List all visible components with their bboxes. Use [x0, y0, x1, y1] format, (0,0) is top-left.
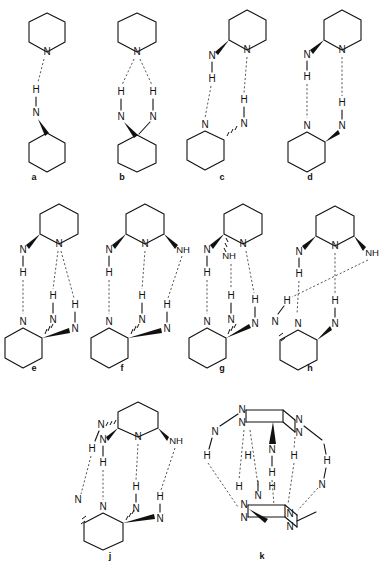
atom-label-N-ring-top: N [239, 238, 246, 249]
stereo-hash-f [131, 324, 139, 334]
atom-label-H-topleft: H [295, 268, 302, 279]
hydrogen-bond-2 [140, 59, 152, 85]
atom-label-N-ring-bottom: N [203, 316, 210, 327]
atom-label-N-top-left2: N [238, 417, 245, 428]
panel-caption-h: h [290, 363, 330, 373]
cage-top-ring [246, 410, 295, 432]
panel-caption-c: c [202, 172, 242, 182]
piperidine-ring-bottom [91, 328, 128, 368]
atom-label-N-amine-left2: N [99, 434, 106, 445]
structure-panel-c: N N H H N N [185, 0, 285, 175]
panel-caption-b: b [102, 172, 142, 182]
atom-label-N-amine-bottom: N [338, 120, 345, 131]
atom-label-H-left: H [117, 86, 124, 97]
atom-label-N-amine-bottomfar: N [74, 494, 81, 505]
atom-label-H-right: H [156, 491, 163, 502]
stereo-hash-g-bottom [228, 324, 236, 334]
hydrogen-bond-right [244, 57, 247, 93]
bond-Nouterright-H [324, 444, 326, 454]
atom-label-H-left-lower: H [235, 481, 242, 492]
stereo-hash-c [227, 126, 237, 136]
hydrogen-bond-k-7 [298, 488, 318, 510]
stereo-wedge-e-bottom [42, 328, 70, 338]
atom-label-H-right: H [163, 299, 170, 310]
stereo-wedge-g-bottom [226, 324, 251, 338]
atom-label-N-ring-top: N [331, 240, 338, 251]
atom-label-H-top: H [208, 73, 215, 84]
bond-Hlowleft-Namine [278, 306, 284, 314]
atom-label-N-amine-center: N [227, 314, 234, 325]
atom-label-N-ring-bottom: N [294, 318, 301, 329]
atom-label-N-top-left: N [238, 404, 245, 415]
hydrogen-bond-crossing [292, 260, 368, 297]
bond-arm-right-top [304, 426, 322, 440]
atom-label-NH-center: NH [222, 250, 236, 261]
piperidine-ring-bottom [288, 132, 325, 172]
atom-label-H-left: H [105, 267, 112, 278]
atom-label-N-bottom-right: N [286, 508, 293, 519]
piperidine-ring-bottom [84, 513, 123, 550]
hydrogen-bond-right [161, 448, 175, 490]
atom-label-N-amine-top: N [303, 49, 310, 60]
structure-panel-f: N N NH H H H N N N [90, 196, 195, 364]
bond-arm-left-top [220, 414, 238, 426]
atom-label-N-amine-center: N [331, 318, 338, 329]
stereo-wedge-j-right [158, 428, 169, 441]
atom-label-N-ring-bottom: N [105, 316, 112, 327]
atom-label-H-lowleft: H [283, 295, 290, 306]
atom-label-N-amine-top: N [19, 244, 26, 255]
stereo-hash-e [45, 324, 53, 334]
hydrogen-bond-k-1 [239, 430, 244, 480]
atom-label-N-top: N [43, 46, 50, 57]
atom-label-H-center-mid: H [268, 467, 275, 478]
atom-label-NH-right: NH [169, 435, 183, 446]
atom-label-H-left2: H [99, 457, 106, 468]
panel-caption-d: d [290, 172, 330, 182]
structure-panel-k: N N N N N H H N N H H H H H N [198, 392, 338, 542]
atom-label-N-ring-top: N [338, 44, 345, 55]
piperidine-ring-bottom [187, 131, 224, 170]
atom-label-N-right: N [149, 111, 156, 122]
hydrogen-bond-1 [38, 59, 44, 82]
atom-label-H-bottom: H [240, 94, 247, 105]
stereo-wedge-k-bottom [249, 509, 268, 523]
atom-label-H-center-lower: H [268, 481, 275, 492]
stereo-wedge-h-bottom [317, 326, 332, 340]
hydrogen-bond-k-5 [288, 463, 294, 504]
atom-label-H-right: H [71, 299, 78, 310]
stereo-wedge-d [310, 40, 324, 54]
hydrogen-bond-center [142, 251, 145, 289]
piperidine-ring-bottom [189, 328, 226, 368]
structure-panel-e: N N H H H N N N [2, 196, 102, 364]
bond-Nouterleft-H [209, 438, 212, 449]
atom-label-N-top: N [133, 46, 140, 57]
stereo-wedge-e [26, 234, 40, 249]
atom-label-H-center: H [138, 290, 145, 301]
atom-label-H-left: H [203, 267, 210, 278]
hydrogen-bond-center [53, 251, 58, 289]
atom-label-N-ring-top: N [134, 431, 141, 442]
atom-label-N-top-right: N [295, 414, 302, 425]
atom-label-N-bottom-left: N [240, 499, 247, 510]
cyclohexane-ring-bottom [29, 133, 65, 172]
hydrogen-bond-center [136, 444, 138, 480]
atom-label-N-ring-bottom: N [19, 316, 26, 327]
hydrogen-bond-k-4 [294, 437, 295, 449]
atom-label-H-right: H [149, 86, 156, 97]
atom-label-N-amine-right: N [71, 323, 78, 334]
stereo-wedge-j-left [106, 428, 118, 441]
hydrogen-bond-left [297, 281, 299, 314]
atom-label-N-amine-right: N [156, 513, 163, 524]
atom-label-H-center: H [49, 290, 56, 301]
panel-caption-e: e [14, 363, 54, 373]
atom-label-N-amine-top: N [203, 244, 210, 255]
structure-panel-j: N N N NH H H H H [70, 392, 195, 542]
atom-label-N-ring-bottom: N [99, 501, 106, 512]
atom-label-N-inner-lower: N [254, 490, 261, 501]
hydrogen-bond-left [205, 86, 211, 118]
stereo-wedge-j-bottom [123, 514, 155, 523]
hydrogen-bond-right [168, 256, 182, 298]
bond-Nright-C [139, 122, 150, 134]
hydrogen-bond-1 [122, 59, 134, 85]
atom-label-N-amine-top: N [208, 50, 215, 61]
